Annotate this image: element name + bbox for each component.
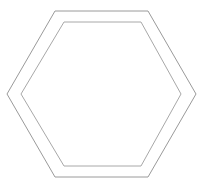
figure-canvas [0, 0, 208, 189]
hexagon-figure [0, 0, 208, 189]
figure-background [0, 0, 208, 189]
